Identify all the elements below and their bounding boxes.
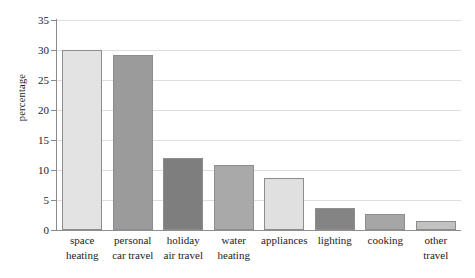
bar [214,165,254,230]
y-axis-tick [51,80,57,81]
y-axis-tick [51,20,57,21]
bar [416,221,456,230]
bar [113,55,153,230]
x-axis-label-line: travel [391,248,475,263]
y-axis-tick [51,110,57,111]
y-axis-tick [51,200,57,201]
y-axis-tick-label: 20 [3,105,49,116]
bar [365,214,405,230]
y-axis-tick [51,140,57,141]
y-axis-tick [51,50,57,51]
gridline [57,230,461,231]
y-axis-tick-label: 10 [3,165,49,176]
bar [315,208,355,230]
y-axis-tick-label: 30 [3,45,49,56]
y-axis-tick-label: 15 [3,135,49,146]
x-axis-label-line: heating [189,248,279,263]
y-axis-tick-label: 5 [3,195,49,206]
y-axis-tick [51,170,57,171]
bars-layer [57,20,461,230]
bar [264,178,304,230]
y-axis-tick-label: 35 [3,15,49,26]
x-axis-label-line: other [391,233,475,248]
bar [163,158,203,230]
y-axis-tick-label: 25 [3,75,49,86]
x-axis-category-labels: spaceheatingpersonalcar travelholidayair… [57,233,469,278]
y-axis-tick [51,230,57,231]
bar [62,50,102,230]
bar-chart: percentage 05101520253035 spaceheatingpe… [0,0,475,278]
x-axis-category-label: othertravel [391,233,475,262]
